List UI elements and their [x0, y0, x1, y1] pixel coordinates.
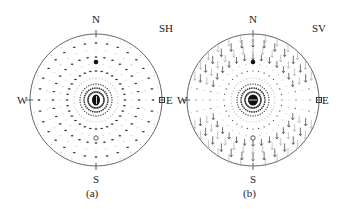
- panel-a-caption: (a): [86, 188, 98, 199]
- panel-a-south-label: S: [93, 174, 99, 185]
- filled-pole-dot-icon: [94, 60, 99, 65]
- panel-sv-projection: [183, 30, 322, 170]
- panel-b-east-label: E: [322, 95, 329, 106]
- panel-sh-projection: [26, 30, 165, 170]
- panel-a-west-label: W: [17, 95, 27, 106]
- panel-a-north-label: N: [92, 14, 100, 25]
- filled-pole-dot-icon: [251, 60, 256, 65]
- panel-a-type-label: SH: [159, 23, 173, 34]
- center-marker-icon: [92, 95, 100, 106]
- panel-b-west-label: W: [177, 95, 187, 106]
- panel-b-caption: (b): [243, 188, 256, 199]
- panel-b-south-label: S: [250, 174, 256, 185]
- panel-a-east-label: E: [166, 95, 173, 106]
- panel-b-north-label: N: [249, 14, 257, 25]
- panel-b-type-label: SV: [312, 23, 326, 34]
